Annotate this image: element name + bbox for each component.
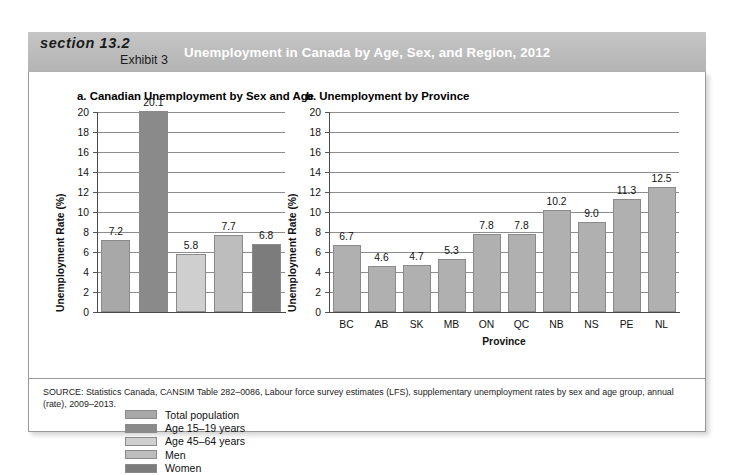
- y-axis-title: Unemployment Rate (%): [287, 194, 298, 312]
- legend-swatch: [125, 464, 157, 473]
- bar: [333, 245, 361, 312]
- bar-value-label: 7.7: [221, 221, 235, 232]
- gridline: [97, 232, 285, 233]
- y-axis-tick-label: 16: [63, 147, 89, 158]
- y-axis-tick-label: 12: [63, 187, 89, 198]
- exhibit-label: Exhibit 3: [40, 52, 170, 68]
- legend-swatch: [125, 450, 157, 459]
- bar: [578, 222, 606, 312]
- gridline: [97, 212, 285, 213]
- bar: [438, 259, 466, 312]
- exhibit-figure: section 13.2 Exhibit 3 Unemployment in C…: [28, 32, 706, 432]
- bar-value-label: 7.2: [109, 226, 123, 237]
- y-axis-line: [97, 112, 98, 313]
- bar: [613, 199, 641, 312]
- bar-value-label: 7.8: [514, 220, 528, 231]
- y-axis-tick-label: 12: [295, 187, 321, 198]
- x-axis-tick-label: NB: [549, 319, 563, 330]
- y-axis-tick-label: 0: [63, 307, 89, 318]
- y-axis-tick-label: 16: [295, 147, 321, 158]
- bar: [473, 234, 501, 312]
- x-axis-line: [329, 312, 680, 313]
- legend-swatch: [125, 424, 157, 433]
- panel-b-title: b. Unemployment by Province: [306, 90, 469, 102]
- bar: [403, 265, 431, 312]
- bar: [101, 240, 130, 312]
- legend-swatch: [125, 410, 157, 419]
- legend-item: Age 15–19 years: [125, 421, 245, 434]
- x-axis-tick-label: BC: [339, 319, 353, 330]
- y-axis-tick-label: 10: [295, 207, 321, 218]
- x-axis-tick-label: NS: [584, 319, 598, 330]
- legend-label: Age 45–64 years: [165, 435, 245, 447]
- y-axis-tick-label: 14: [63, 167, 89, 178]
- gridline: [97, 152, 285, 153]
- bar-value-label: 9.0: [584, 208, 598, 219]
- gridline: [329, 152, 679, 153]
- x-axis-tick-label: NL: [655, 319, 668, 330]
- gridline: [329, 112, 679, 113]
- x-axis-line: [97, 312, 286, 313]
- exhibit-header-band: section 13.2 Exhibit 3 Unemployment in C…: [28, 32, 706, 72]
- gridline: [329, 172, 679, 173]
- y-axis-tick-label: 20: [295, 107, 321, 118]
- bar: [543, 210, 571, 312]
- charts-container: a. Canadian Unemployment by Sex and Age …: [29, 72, 705, 378]
- gridline: [97, 132, 285, 133]
- y-axis-tick-label: 8: [63, 227, 89, 238]
- gridline: [97, 112, 285, 113]
- y-axis-tick-label: 18: [295, 127, 321, 138]
- legend-item: Age 45–64 years: [125, 435, 245, 448]
- x-axis-tick-label: SK: [410, 319, 424, 330]
- y-axis-tick-label: 6: [63, 247, 89, 258]
- y-axis-tick-label: 4: [63, 267, 89, 278]
- bar-value-label: 11.3: [617, 185, 636, 196]
- source-note: SOURCE: Statistics Canada, CANSIM Table …: [43, 386, 691, 411]
- y-axis-tick-label: 0: [295, 307, 321, 318]
- bar: [648, 187, 676, 312]
- bar-value-label: 7.8: [479, 220, 493, 231]
- y-axis-line: [329, 112, 330, 313]
- y-axis-tick-label: 2: [63, 287, 89, 298]
- bar: [508, 234, 536, 312]
- legend-item: Women: [125, 462, 245, 475]
- exhibit-header-left: section 13.2 Exhibit 3: [28, 32, 180, 72]
- source-divider: [29, 378, 705, 379]
- y-axis-tick-label: 6: [295, 247, 321, 258]
- bar-value-label: 5.8: [184, 240, 198, 251]
- x-axis-title: Province: [329, 336, 679, 347]
- x-axis-tick-label: QC: [514, 319, 529, 330]
- panel-a-title: a. Canadian Unemployment by Sex and Age: [77, 90, 314, 102]
- exhibit-body: a. Canadian Unemployment by Sex and Age …: [28, 72, 706, 432]
- gridline: [329, 132, 679, 133]
- y-axis-tick-label: 18: [63, 127, 89, 138]
- legend-item: Men: [125, 448, 245, 461]
- x-axis-tick-label: AB: [375, 319, 389, 330]
- bar: [368, 266, 396, 312]
- bar: [214, 235, 243, 312]
- bar-value-label: 6.8: [259, 230, 273, 241]
- bar-value-label: 10.2: [546, 196, 566, 207]
- bar-value-label: 4.7: [409, 251, 423, 262]
- bar: [252, 244, 281, 312]
- bar: [139, 111, 168, 312]
- section-label: section 13.2: [40, 35, 170, 52]
- x-axis-tick-label: ON: [479, 319, 494, 330]
- bar-value-label: 5.3: [444, 245, 458, 256]
- x-axis-tick-label: PE: [620, 319, 634, 330]
- bar-value-label: 6.7: [339, 231, 353, 242]
- x-axis-tick-label: MB: [444, 319, 459, 330]
- legend-label: Women: [165, 462, 201, 474]
- legend-swatch: [125, 437, 157, 446]
- legend-label: Men: [165, 449, 186, 461]
- y-axis-tick-label: 8: [295, 227, 321, 238]
- bar-value-label: 20.1: [143, 97, 163, 108]
- y-axis-tick-label: 4: [295, 267, 321, 278]
- gridline: [97, 172, 285, 173]
- gridline: [97, 192, 285, 193]
- y-axis-tick-label: 2: [295, 287, 321, 298]
- y-axis-tick-label: 10: [63, 207, 89, 218]
- legend-label: Age 15–19 years: [165, 422, 245, 434]
- exhibit-title: Unemployment in Canada by Age, Sex, and …: [180, 32, 706, 72]
- chart-a-legend: Total populationAge 15–19 yearsAge 45–64…: [125, 408, 245, 475]
